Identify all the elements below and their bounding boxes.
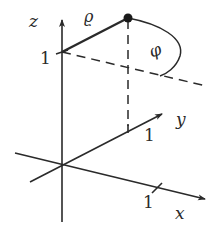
x-axis-label: x — [175, 203, 185, 223]
phi-label: φ — [146, 39, 164, 62]
z-axis-label: z — [28, 11, 39, 31]
rho-label: ϱ — [84, 7, 94, 26]
y-axis-label: y — [175, 109, 186, 129]
point-marker — [124, 14, 133, 23]
x-tick-label: 1 — [143, 192, 154, 212]
diagram-svg: z 1 ϱ φ y 1 1 x — [0, 0, 219, 234]
cylindrical-coordinates-diagram: z 1 ϱ φ y 1 1 x — [0, 0, 219, 234]
z-tick-label: 1 — [40, 48, 51, 68]
y-tick-label: 1 — [144, 125, 155, 145]
rho-segment — [62, 18, 128, 52]
reference-dashed-line — [62, 52, 206, 86]
x-axis — [15, 153, 205, 199]
